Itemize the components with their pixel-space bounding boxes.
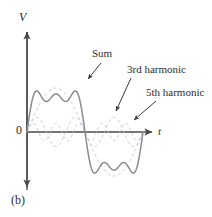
fifth-harmonic-leader-line [134,101,156,120]
third-harmonic-leader-line [116,78,131,111]
panel-caption: (b) [11,194,25,206]
sum-annotation-label: Sum [92,48,112,59]
y-axis-label: V [19,11,26,23]
third-harmonic-annotation-label: 3rd harmonic [127,64,186,75]
fifth-harmonic-annotation-label: 5th harmonic [146,87,204,98]
fourier-square-wave-figure: V t 0 Sum 3rd harmonic 5th harmonic (b) [0,0,212,217]
waveform-plot [0,0,212,217]
axis-lines [27,32,152,190]
x-axis-label: t [158,126,161,137]
origin-label: 0 [16,124,22,136]
sum-leader-line [88,63,101,79]
